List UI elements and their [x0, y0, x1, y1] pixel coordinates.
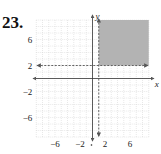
y-tick-label: 6 — [28, 35, 33, 45]
inequality-plot: xy −6−22662−2−6 — [0, 0, 161, 154]
x-tick-label: 6 — [128, 139, 133, 149]
shaded-region — [99, 20, 149, 66]
y-tick-label: 2 — [28, 61, 33, 71]
y-tick-label: −6 — [23, 113, 33, 123]
y-tick-label: −2 — [23, 87, 33, 97]
x-tick-label: 2 — [103, 139, 108, 149]
x-tick-label: −6 — [50, 139, 60, 149]
origin-dot — [91, 144, 93, 146]
x-axis-label: x — [154, 79, 159, 89]
x-tick-label: −2 — [75, 139, 85, 149]
